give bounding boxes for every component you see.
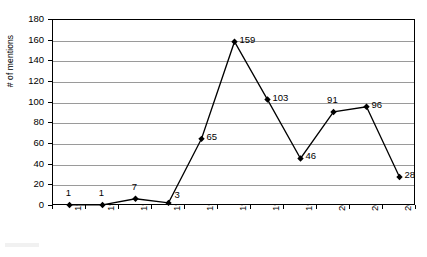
data-point-marker (264, 96, 270, 102)
y-axis-tick-label: 180 (14, 14, 44, 24)
scan-artifact (5, 243, 39, 247)
y-axis-tick-label: 0 (14, 200, 44, 210)
y-axis-tick-label: 20 (14, 179, 44, 189)
y-axis-tick-label: 120 (14, 76, 44, 86)
plot-area (52, 19, 415, 205)
y-axis-tick-label: 60 (14, 138, 44, 148)
data-point-label: 46 (306, 151, 317, 161)
data-point-marker (165, 200, 171, 206)
data-point-label: 28 (405, 170, 416, 180)
data-point-label: 7 (132, 182, 137, 192)
data-point-label: 103 (273, 93, 289, 103)
data-point-marker (198, 136, 204, 142)
y-axis-tick-label: 160 (14, 35, 44, 45)
series-line (53, 20, 416, 206)
data-point-label: 91 (327, 95, 338, 105)
y-axis-tick-label: 100 (14, 97, 44, 107)
data-point-label: 1 (66, 188, 71, 198)
data-point-marker (363, 104, 369, 110)
y-axis-tick-label: 140 (14, 55, 44, 65)
data-point-label: 1 (99, 188, 104, 198)
data-point-label: 159 (240, 35, 256, 45)
data-point-label: 3 (175, 190, 180, 200)
y-axis-tick-label: 40 (14, 159, 44, 169)
y-axis-tick-label: 80 (14, 117, 44, 127)
line-chart: # of mentions 020406080100120140160180 1… (0, 0, 427, 257)
series-polyline (70, 42, 400, 205)
data-point-marker (396, 174, 402, 180)
data-point-label: 65 (207, 132, 218, 142)
data-point-label: 96 (372, 100, 383, 110)
data-point-marker (231, 39, 237, 45)
data-point-marker (132, 196, 138, 202)
